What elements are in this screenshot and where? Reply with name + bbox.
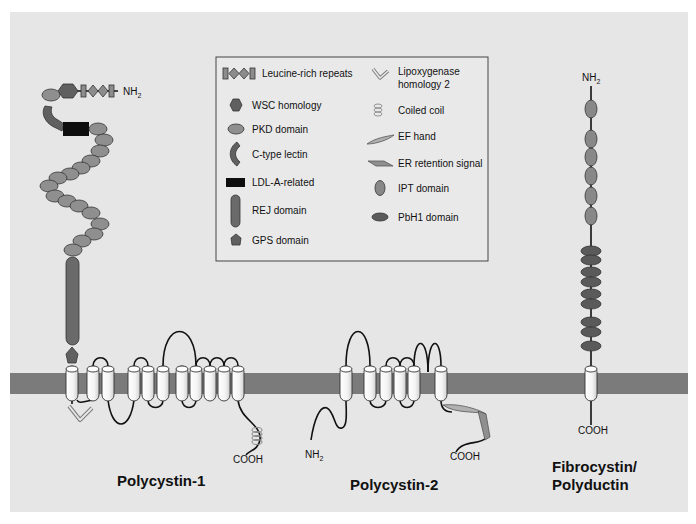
svg-text:EF hand: EF hand	[398, 131, 436, 142]
pc1-pkd-domain	[42, 89, 60, 101]
svg-text:homology 2: homology 2	[398, 79, 450, 90]
svg-text:REJ domain: REJ domain	[252, 205, 306, 216]
pc1-title: Polycystin-1	[117, 472, 205, 489]
svg-text:Leucine-rich repeats: Leucine-rich repeats	[262, 68, 353, 79]
pc1-rej-domain	[66, 257, 79, 345]
pc2-cooh-label: COOH	[450, 451, 480, 462]
svg-text:PbH1 domain: PbH1 domain	[398, 212, 459, 223]
pc1-cooh-label: COOH	[233, 454, 263, 465]
ipt-domain-icon	[375, 181, 385, 196]
svg-text:LDL-A-related: LDL-A-related	[252, 177, 314, 188]
fpc-cooh-label: COOH	[578, 425, 608, 436]
protein-topology-diagram: NH2	[0, 0, 696, 524]
svg-text:GPS domain: GPS domain	[252, 235, 309, 246]
legend-item-ldl-a-related: LDL-A-related	[226, 177, 314, 188]
fpc-title-line1: Fibrocystin/	[552, 458, 638, 475]
pc1-ldl-a-related	[63, 122, 89, 136]
pbh1-domain-icon	[372, 213, 388, 221]
svg-text:WSC homology: WSC homology	[252, 100, 321, 111]
svg-text:C-type lectin: C-type lectin	[252, 149, 308, 160]
svg-text:PKD domain: PKD domain	[252, 124, 308, 135]
rej-domain-icon	[231, 195, 240, 227]
svg-text:Lipoxygenase: Lipoxygenase	[398, 66, 460, 77]
pc2-title: Polycystin-2	[350, 476, 438, 493]
fpc-title-line2: Polyductin	[552, 476, 629, 493]
svg-text:ER retention signal: ER retention signal	[398, 158, 483, 169]
ldl-a-related-icon	[226, 178, 245, 187]
svg-text:IPT domain: IPT domain	[398, 183, 449, 194]
legend: Leucine-rich repeats WSC homology PKD do…	[216, 57, 488, 261]
legend-item-leucine-rich-repeats: Leucine-rich repeats	[223, 68, 353, 79]
wsc-homology-icon	[230, 99, 242, 111]
legend-item-pkd-domain: PKD domain	[228, 124, 308, 135]
fpc-transmembrane-helix	[585, 366, 597, 401]
pkd-domain-icon	[228, 124, 244, 134]
svg-text:Coiled coil: Coiled coil	[398, 105, 444, 116]
